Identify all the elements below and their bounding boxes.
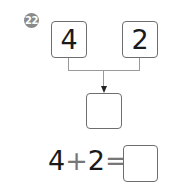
arrow-down-icon	[101, 86, 107, 93]
addend-1: 4	[60, 24, 77, 55]
connector-right	[139, 58, 140, 70]
connector-horizontal	[68, 70, 140, 71]
plus-sign: +	[65, 145, 88, 176]
addend-box-1: 4	[51, 21, 87, 58]
problem-number-badge: 22	[24, 13, 39, 28]
addend-box-2: 2	[122, 21, 158, 58]
equation: 4+2=	[48, 143, 128, 179]
equation-left: 4	[48, 145, 65, 176]
addend-2: 2	[131, 24, 148, 55]
connector-left	[68, 58, 69, 70]
equation-right: 2	[88, 145, 105, 176]
sum-answer-box[interactable]	[86, 93, 122, 129]
equation-answer-box[interactable]	[123, 145, 158, 182]
